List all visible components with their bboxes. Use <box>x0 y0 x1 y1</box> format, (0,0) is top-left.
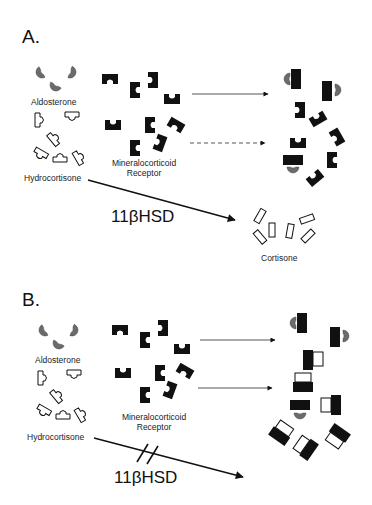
bound-complexes-a <box>283 69 345 187</box>
panel-a <box>32 66 345 244</box>
receptor-label-line1: Mineralocorticoid <box>118 412 190 422</box>
enzyme-label-b: 11βHSD <box>114 468 177 488</box>
receptor-molecules-b <box>112 320 194 403</box>
receptor-label-line2: Receptor <box>118 422 190 432</box>
panel-label-a: A. <box>22 26 40 48</box>
panel-label-b: B. <box>22 289 40 311</box>
hydrocortisone-label-a: Hydrocortisone <box>24 173 81 183</box>
receptor-label-line2: Receptor <box>108 168 180 178</box>
aldosterone-label-a: Aldosterone <box>31 97 76 107</box>
hydrocortisone-molecules-b <box>35 370 88 423</box>
aldosterone-molecules-a <box>34 66 78 93</box>
receptor-label-a: Mineralocorticoid Receptor <box>108 158 180 178</box>
receptor-molecules-a <box>102 72 185 156</box>
enzyme-label-a: 11βHSD <box>111 207 174 227</box>
hydrocortisone-molecules-a <box>32 112 86 166</box>
cortisone-label: Cortisone <box>261 253 297 263</box>
cortisone-molecules <box>253 208 315 244</box>
aldosterone-molecules-b <box>37 324 80 351</box>
receptor-label-b: Mineralocorticoid Receptor <box>118 412 190 432</box>
hydrocortisone-label-b: Hydrocortisone <box>27 432 84 442</box>
receptor-label-line1: Mineralocorticoid <box>108 158 180 168</box>
panel-b <box>35 313 351 477</box>
aldosterone-label-b: Aldosterone <box>35 355 80 365</box>
bound-complexes-b <box>268 313 351 461</box>
